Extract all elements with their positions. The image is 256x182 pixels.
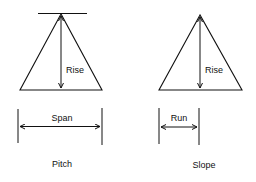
slope-caption: Slope [192,160,215,170]
slope-diagram: Rise Run Slope [159,15,242,170]
pitch-caption: Pitch [52,159,72,169]
span-label: Span [51,113,72,123]
run-label: Run [171,113,188,123]
rise-label: Rise [205,65,223,75]
roof-pitch-slope-diagram: Rise Span Pitch Rise Run Slope [0,0,256,182]
pitch-diagram: Rise Span Pitch [18,14,102,170]
rise-label: Rise [66,65,84,75]
